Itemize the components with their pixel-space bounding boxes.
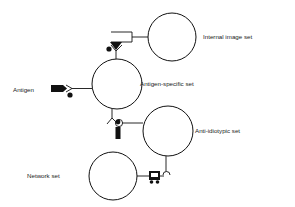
- idiotypic-network-diagram: Internal image set Antigen-specific set …: [0, 0, 295, 207]
- antigen-label: Antigen: [13, 86, 35, 93]
- network-set-circle: [89, 152, 137, 200]
- antigen-icon: [51, 85, 92, 98]
- antigen-specific-set-label: Antigen-specific set: [140, 80, 194, 87]
- network-binding-icon: [137, 156, 170, 184]
- anti-idiotypic-set-label: Anti-idiotypic set: [195, 127, 240, 134]
- internal-image-receptor-icon: [111, 32, 148, 42]
- anti-idiotypic-set-circle: [143, 106, 193, 156]
- antigen-specific-top-receptor-icon: [106, 42, 122, 59]
- anti-idiotype-binding-icon: [107, 109, 143, 139]
- antigen-specific-set-circle: [92, 59, 142, 109]
- internal-image-set-label: Internal image set: [203, 33, 252, 40]
- network-set-label: Network set: [27, 172, 60, 179]
- internal-image-set-circle: [148, 13, 196, 61]
